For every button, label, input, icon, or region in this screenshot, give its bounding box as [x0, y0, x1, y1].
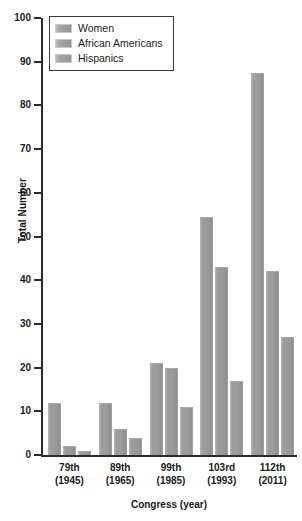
y-axis-title: Total Number — [17, 151, 28, 271]
legend-label: Hispanics — [78, 53, 124, 64]
y-axis-tick — [34, 192, 41, 194]
y-axis-tick-label: 60 — [0, 188, 31, 198]
legend-swatch-african-americans — [55, 39, 72, 48]
y-axis-tick — [34, 61, 41, 63]
y-axis-tick — [34, 367, 41, 369]
y-axis-tick-label: 10 — [0, 406, 31, 416]
bar — [114, 429, 127, 455]
legend-item: Women — [55, 21, 163, 36]
legend-label: Women — [78, 23, 114, 34]
bar — [129, 438, 142, 455]
bar — [215, 267, 228, 455]
y-axis-tick — [34, 323, 41, 325]
y-axis-tick-label: 90 — [0, 57, 31, 67]
legend-label: African Americans — [78, 38, 163, 49]
bar — [180, 407, 193, 455]
y-axis-tick-label: 100 — [0, 13, 31, 23]
bar — [200, 217, 213, 455]
x-axis-title: Congress (year) — [41, 499, 297, 510]
plot-area — [43, 18, 297, 455]
bar — [48, 403, 61, 455]
legend-swatch-women — [55, 24, 72, 33]
bar — [165, 368, 178, 455]
bar-group — [200, 18, 243, 455]
bar — [251, 73, 264, 455]
y-axis-tick — [34, 17, 41, 19]
y-axis-tick-label: 0 — [0, 450, 31, 460]
bar-group — [251, 18, 294, 455]
bar — [230, 381, 243, 455]
y-axis-tick-label: 50 — [0, 232, 31, 242]
legend-item: Hispanics — [55, 51, 163, 66]
bar-group — [48, 18, 91, 455]
bar — [150, 363, 163, 455]
bar-group — [150, 18, 193, 455]
y-axis-tick-label: 20 — [0, 363, 31, 373]
bar — [266, 271, 279, 455]
bar — [63, 446, 76, 455]
legend-swatch-hispanics — [55, 54, 72, 63]
y-axis-tick — [34, 148, 41, 150]
y-axis-tick — [34, 104, 41, 106]
y-axis-tick — [34, 236, 41, 238]
x-axis-congress-label: 112th — [243, 461, 302, 474]
bar-chart: Total Number 0102030405060708090100 79th… — [0, 0, 302, 521]
y-axis-tick-label: 80 — [0, 100, 31, 110]
bar-group — [99, 18, 142, 455]
legend-item: African Americans — [55, 36, 163, 51]
y-axis-tick — [34, 454, 41, 456]
y-axis-tick-label: 70 — [0, 144, 31, 154]
x-axis-year-label: (2011) — [243, 474, 302, 487]
y-axis-tick — [34, 279, 41, 281]
bar — [281, 337, 294, 455]
bar — [99, 403, 112, 455]
y-axis-tick-label: 30 — [0, 319, 31, 329]
chart-legend: WomenAfrican AmericansHispanics — [49, 16, 174, 71]
y-axis-tick — [34, 410, 41, 412]
x-axis-group-label: 112th(2011) — [243, 461, 302, 487]
x-axis-line — [41, 455, 297, 457]
y-axis-tick-label: 40 — [0, 275, 31, 285]
